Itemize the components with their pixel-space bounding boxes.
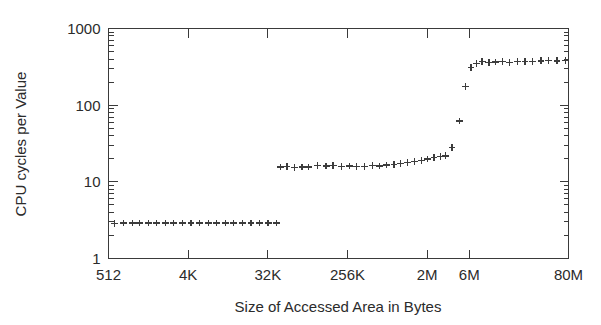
x-tick-label-32K: 32K: [254, 266, 281, 283]
chart-figure: 1101001000 5124K32K256K2M6M80M CPU cycle…: [0, 0, 601, 325]
y-tick-label-100: 100: [75, 97, 100, 114]
x-axis-title: Size of Accessed Area in Bytes: [235, 298, 442, 315]
x-tick-label-512: 512: [96, 266, 121, 283]
x-tick-label-6M: 6M: [459, 266, 480, 283]
x-tick-label-256K: 256K: [330, 266, 365, 283]
x-tick-label-4K: 4K: [179, 266, 197, 283]
y-axis-title: CPU cycles per Value: [12, 72, 29, 217]
x-tick-label-2M: 2M: [417, 266, 438, 283]
y-tick-label-1000: 1000: [67, 20, 100, 37]
y-tick-label-1: 1: [92, 250, 100, 267]
cpu-cycles-scatter-chart: 1101001000 5124K32K256K2M6M80M CPU cycle…: [0, 0, 601, 325]
chart-background: [0, 0, 601, 325]
y-tick-label-10: 10: [84, 173, 101, 190]
x-tick-label-80M: 80M: [554, 266, 583, 283]
